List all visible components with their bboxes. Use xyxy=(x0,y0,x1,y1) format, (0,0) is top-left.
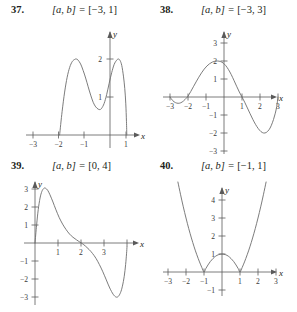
problem-39-axes: 1 2 3 1 2 3 −1 −2 −3 x y xyxy=(20,179,144,305)
x-ticklabel-1: 1 xyxy=(240,102,244,111)
y-ticklabel--3: −3 xyxy=(209,147,217,156)
y-ticklabel--1: −1 xyxy=(207,286,215,295)
x-ticklabel-2: 2 xyxy=(258,102,262,111)
problem-37-plot: −3 −2 −1 1 1 2 x y xyxy=(0,18,148,156)
problem-40-plot: −3 −2 −1 1 2 3 1 2 3 4 −1 x y xyxy=(149,174,297,312)
x-axis-label: x xyxy=(140,131,145,141)
x-ticklabel--3: −3 xyxy=(29,140,37,149)
y-ticklabel-4: 4 xyxy=(211,196,215,205)
problem-40: 40. [a, b] = [−1, 1] xyxy=(149,156,297,312)
x-axis-label: x xyxy=(278,93,283,103)
y-ticklabel--3: −3 xyxy=(20,293,28,302)
x-ticklabel-3: 3 xyxy=(274,277,278,286)
problem-37-number: 37. xyxy=(11,4,24,15)
problem-39-svg: 1 2 3 1 2 3 −1 −2 −3 x y xyxy=(0,174,148,312)
problem-39: 39. [a, b] = [0, 4] xyxy=(0,156,148,312)
problem-40-svg: −3 −2 −1 1 2 3 1 2 3 4 −1 x y xyxy=(149,174,297,312)
x-ticklabel--1: −1 xyxy=(200,277,208,286)
y-ticklabel-1: 1 xyxy=(24,221,28,230)
problem-40-interval: [a, b] = [−1, 1] xyxy=(201,160,266,171)
problem-38-axes: −3 −2 −1 1 2 3 1 2 3 −1 −2 −3 x y xyxy=(163,29,283,156)
y-axis-label: y xyxy=(226,29,231,39)
problem-38-interval: [a, b] = [−3, 3] xyxy=(201,4,266,15)
x-ticklabel--2: −2 xyxy=(182,277,190,286)
y-ticklabel-3: 3 xyxy=(213,39,217,48)
y-axis-arrow xyxy=(221,31,226,38)
x-ticklabel--3: −3 xyxy=(166,102,174,111)
problem-37-interval: [a, b] = [−3, 1] xyxy=(52,4,117,15)
problem-37: 37. [a, b] = [−3, 1] −3 −2 − xyxy=(0,0,148,156)
x-ticklabel-2: 2 xyxy=(256,277,260,286)
problem-37-interval-value: [−3, 1] xyxy=(88,4,117,15)
y-ticklabel--1: −1 xyxy=(20,257,28,266)
y-ticklabel--2: −2 xyxy=(20,275,28,284)
x-ticklabel--3: −3 xyxy=(164,277,172,286)
x-ticklabel-2: 2 xyxy=(79,248,83,257)
problem-39-curve xyxy=(35,188,127,297)
x-ticklabel--1: −1 xyxy=(80,140,88,149)
y-ticklabel-2: 2 xyxy=(24,203,28,212)
problem-39-plot: 1 2 3 1 2 3 −1 −2 −3 x y xyxy=(0,174,148,312)
problem-39-interval-prefix: [a, b] = xyxy=(52,160,88,171)
y-axis-arrow xyxy=(219,187,224,194)
problem-40-axes: −3 −2 −1 1 2 3 1 2 3 4 −1 x y xyxy=(163,185,283,296)
exercise-sheet: 37. [a, b] = [−3, 1] −3 −2 − xyxy=(0,0,297,312)
problem-39-interval: [a, b] = [0, 4] xyxy=(52,160,111,171)
x-axis-arrow xyxy=(133,240,139,245)
y-ticklabel-2: 2 xyxy=(211,232,215,241)
problem-39-number: 39. xyxy=(11,160,24,171)
problem-38-number: 38. xyxy=(160,4,173,15)
y-ticklabel-3: 3 xyxy=(211,214,215,223)
x-ticklabel-1: 1 xyxy=(124,140,128,149)
problem-39-interval-value: [0, 4] xyxy=(88,160,111,171)
y-ticklabel-3: 3 xyxy=(24,185,28,194)
y-ticklabel--1: −1 xyxy=(209,111,217,120)
x-ticklabel-3: 3 xyxy=(102,248,106,257)
problem-40-number: 40. xyxy=(160,160,173,171)
y-ticklabel-1: 1 xyxy=(211,250,215,259)
x-ticklabel--1: −1 xyxy=(202,102,210,111)
y-axis-label: y xyxy=(112,29,117,39)
y-ticklabel-2: 2 xyxy=(98,55,102,64)
x-ticklabel-1: 1 xyxy=(238,277,242,286)
y-axis-label: y xyxy=(37,179,42,189)
problem-37-interval-prefix: [a, b] = xyxy=(52,4,88,15)
problem-38-svg: −3 −2 −1 1 2 3 1 2 3 −1 −2 −3 x y xyxy=(149,18,297,156)
y-axis-label: y xyxy=(224,185,229,195)
problem-40-interval-value: [−1, 1] xyxy=(237,160,266,171)
x-ticklabel--2: −2 xyxy=(54,140,62,149)
problem-38-interval-value: [−3, 3] xyxy=(237,4,266,15)
problem-38-interval-prefix: [a, b] = xyxy=(201,4,237,15)
problem-38: 38. [a, b] = [−3, 3] xyxy=(149,0,297,156)
y-ticklabel--2: −2 xyxy=(209,129,217,138)
x-ticklabel-1: 1 xyxy=(56,248,60,257)
y-axis-arrow xyxy=(107,31,112,38)
x-axis-label: x xyxy=(278,268,283,278)
x-axis-arrow xyxy=(134,132,140,137)
y-ticklabel-1: 1 xyxy=(213,75,217,84)
y-ticklabel-1: 1 xyxy=(98,93,102,102)
problem-38-plot: −3 −2 −1 1 2 3 1 2 3 −1 −2 −3 x y xyxy=(149,18,297,156)
x-axis-label: x xyxy=(139,239,144,249)
problem-37-svg: −3 −2 −1 1 1 2 x y xyxy=(0,18,148,156)
problem-37-curve xyxy=(60,59,127,135)
x-axis-arrow xyxy=(271,94,277,99)
y-axis-arrow xyxy=(32,181,37,188)
x-ticklabel--2: −2 xyxy=(184,102,192,111)
problem-40-interval-prefix: [a, b] = xyxy=(201,160,237,171)
